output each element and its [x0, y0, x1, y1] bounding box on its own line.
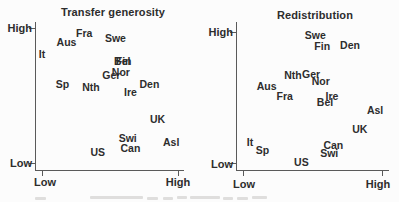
scatter-figure: Transfer generosity Redistribution High …: [0, 0, 399, 202]
cutoff-caption-smudge: [35, 197, 46, 200]
right-plot-x-high-label: High: [366, 179, 390, 190]
left-plot-x-high-label: High: [166, 177, 190, 188]
point-label-nth: Nth: [284, 70, 302, 81]
point-label-aus: Aus: [257, 81, 277, 92]
point-label-den: Den: [340, 40, 360, 51]
point-label-swe: Swe: [305, 29, 326, 40]
right-plot-x-low-label: Low: [233, 179, 255, 190]
cutoff-caption-smudge: [190, 196, 220, 199]
point-label-ger: Ger: [102, 69, 120, 80]
point-label-asl: Asl: [163, 136, 179, 147]
left-plot-title: Transfer generosity: [61, 6, 165, 18]
point-label-it: It: [39, 49, 45, 60]
left-plot-y-low-label: Low: [10, 158, 32, 169]
point-label-bel: Bel: [317, 96, 333, 107]
left-plot-y-axis-line: [35, 22, 36, 170]
point-label-fra: Fra: [277, 91, 293, 102]
left-plot-x-axis-line: [35, 170, 184, 171]
right-plot-y-high-label: High: [209, 27, 233, 38]
cutoff-caption-smudge: [237, 197, 248, 200]
point-label-swi: Swi: [320, 148, 338, 159]
point-label-can: Can: [120, 143, 140, 154]
cutoff-caption-smudge: [147, 197, 158, 200]
point-label-nor: Nor: [312, 75, 330, 86]
point-label-asl: Asl: [367, 104, 383, 115]
point-label-aus: Aus: [57, 37, 77, 48]
left-plot-y-high-label: High: [8, 23, 32, 34]
point-label-nth: Nth: [82, 81, 100, 92]
left-plot-x-low-label: Low: [34, 177, 56, 188]
point-label-uk: UK: [150, 114, 165, 125]
right-plot-title: Redistribution: [277, 9, 353, 21]
point-label-fra: Fra: [76, 28, 92, 39]
cutoff-caption-smudge: [252, 196, 267, 199]
point-label-ire: Ire: [124, 87, 137, 98]
point-label-us: US: [90, 147, 105, 158]
cutoff-caption-smudge: [177, 196, 187, 199]
right-plot-x-low-tick: [243, 171, 244, 176]
point-label-uk: UK: [352, 124, 367, 135]
right-plot-x-high-tick: [382, 171, 383, 176]
point-label-sp: Sp: [256, 145, 269, 156]
point-label-us: US: [294, 157, 309, 168]
right-plot-y-low-label: Low: [211, 159, 233, 170]
cutoff-caption-smudge: [163, 197, 173, 200]
right-plot-y-axis-line: [236, 22, 237, 170]
right-plot-x-axis-line: [236, 170, 389, 171]
point-label-sp: Sp: [56, 79, 69, 90]
point-label-swe: Swe: [105, 33, 126, 44]
point-label-it: It: [247, 137, 253, 148]
point-label-den: Den: [140, 79, 160, 90]
point-label-fin: Fin: [314, 41, 330, 52]
cutoff-caption-smudge: [90, 196, 143, 199]
cutoff-caption-smudge: [223, 197, 233, 200]
